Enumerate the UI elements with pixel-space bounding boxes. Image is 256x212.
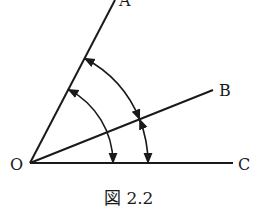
ray-OB xyxy=(30,90,213,163)
ray-OA xyxy=(30,0,115,163)
label-A: A xyxy=(118,0,131,10)
label-C: C xyxy=(238,155,250,174)
diagram-canvas: A B C O 図 2.2 xyxy=(0,0,256,212)
arc-angle-AOC xyxy=(68,89,113,163)
arc-angle-AOB xyxy=(85,58,140,119)
label-O: O xyxy=(10,155,23,174)
figure-caption: 図 2.2 xyxy=(104,188,153,208)
angle-diagram: A B C O 図 2.2 xyxy=(0,0,256,212)
label-B: B xyxy=(219,81,231,100)
arc-angle-BOC xyxy=(140,119,148,163)
